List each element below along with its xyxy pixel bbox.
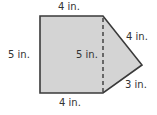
label-left: 5 in.: [8, 49, 30, 60]
composite-figure-diagram: 4 in. 5 in. 5 in. 4 in. 3 in. 4 in.: [0, 0, 157, 115]
label-upper-slant: 4 in.: [126, 31, 148, 42]
label-bottom: 4 in.: [59, 97, 81, 108]
label-lower-slant: 3 in.: [125, 79, 147, 90]
label-top: 4 in.: [58, 1, 80, 12]
label-inner-dashed: 5 in.: [76, 49, 98, 60]
